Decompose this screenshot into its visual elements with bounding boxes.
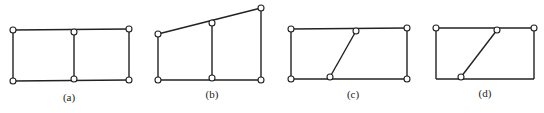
hinge-icon — [433, 25, 439, 31]
figure-label-a: (a) — [63, 91, 76, 104]
hinge-icon — [71, 76, 77, 82]
hinge-icon — [126, 77, 132, 83]
hinge-icon — [258, 77, 264, 83]
hinge-icon — [71, 29, 77, 35]
hinge-icon — [155, 31, 161, 37]
hinge-icon — [288, 76, 294, 82]
figure-label-d: (d) — [479, 87, 492, 100]
hinge-icon — [494, 27, 500, 33]
figure-a — [10, 26, 132, 84]
hinge-icon — [126, 26, 132, 32]
frame-member — [330, 31, 356, 77]
frame-member — [291, 28, 407, 29]
figure-c — [288, 25, 410, 82]
hinge-icon — [10, 78, 16, 84]
hinge-icon — [10, 27, 16, 33]
hinge-icon — [258, 5, 264, 11]
figure-d — [433, 25, 537, 80]
hinge-icon — [404, 76, 410, 82]
hinge-icon — [209, 20, 215, 26]
hinge-icon — [353, 28, 359, 34]
figure-label-c: (c) — [347, 88, 360, 101]
hinge-icon — [155, 77, 161, 83]
hinge-icon — [458, 74, 464, 80]
hinge-icon — [209, 75, 215, 81]
hinge-icon — [288, 26, 294, 32]
frame-member — [13, 29, 129, 30]
frame-member — [461, 30, 497, 77]
figure-label-b: (b) — [206, 88, 219, 101]
hinge-icon — [531, 25, 537, 31]
hinge-icon — [327, 74, 333, 80]
figure-b — [155, 5, 264, 83]
hinge-icon — [404, 25, 410, 31]
structural-frames-diagram: (a) (b) (c) (d) — [0, 0, 544, 113]
